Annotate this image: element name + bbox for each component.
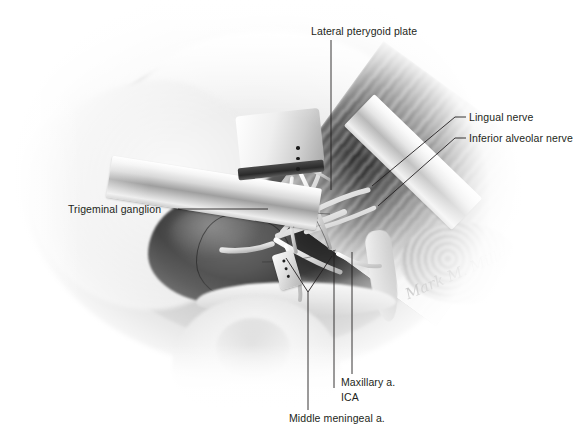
label-lateral-pterygoid-plate: Lateral pterygoid plate [311, 25, 417, 37]
label-ica: ICA [341, 391, 359, 403]
figure-caption-strip [0, 426, 581, 439]
leader-inferior-alveolar-nerve [378, 138, 455, 206]
label-lingual-nerve: Lingual nerve [469, 111, 533, 123]
label-inferior-alveolar-nerve: Inferior alveolar nerve [469, 132, 573, 144]
label-maxillary-artery: Maxillary a. [341, 376, 395, 388]
anatomical-figure: Mark M. Miller Lateral [0, 0, 581, 439]
label-trigeminal-ganglion: Trigeminal ganglion [68, 203, 161, 215]
label-middle-meningeal-artery: Middle meningeal a. [289, 412, 385, 424]
leader-middle-meningeal-fork-right [308, 256, 332, 292]
label-leader-lines [0, 0, 581, 439]
leader-middle-meningeal-fork-left [286, 258, 308, 292]
leader-lingual-nerve [372, 117, 455, 186]
